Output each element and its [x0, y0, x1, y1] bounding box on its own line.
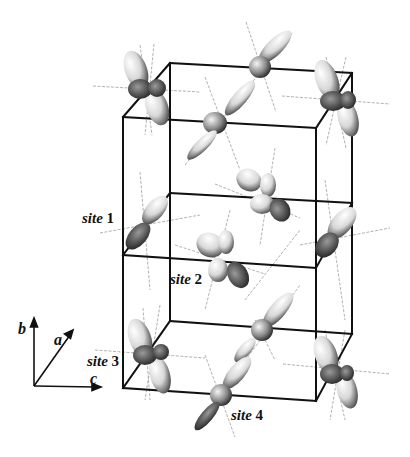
axis-a-label: a	[54, 331, 62, 348]
crystal-structure-diagram: site 1 site 2 site 3 site 4 b a c	[0, 0, 410, 457]
site4-label: site 4	[230, 407, 264, 423]
orbital-middle-right	[310, 202, 362, 262]
orbital-top-center	[184, 26, 297, 164]
site1-label: site 1	[81, 210, 114, 226]
axis-b-label: b	[18, 320, 26, 337]
site2-label: site 2	[169, 271, 202, 287]
orbital-site3	[123, 315, 175, 395]
site3-label: site 3	[86, 353, 119, 369]
axis-c-label: c	[90, 370, 97, 387]
orbital-site1	[121, 191, 173, 254]
